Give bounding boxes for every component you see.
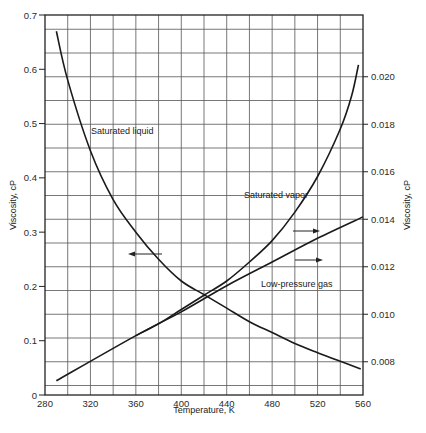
y-axis-label-right: Viscosity, cP [402, 180, 412, 230]
arrow-right-icon [293, 229, 320, 234]
y-axis-label-left: Viscosity, cP [8, 180, 18, 230]
viscosity-chart: 00.10.20.30.40.50.60.7 0.0080.0100.0120.… [0, 0, 426, 433]
left-axis-ticks: 00.10.20.30.40.50.60.7 [24, 10, 45, 401]
grid-lines [45, 15, 363, 395]
right-tick-label: 0.014 [371, 214, 395, 225]
right-tick-label: 0.018 [371, 119, 395, 130]
x-tick-label: 360 [128, 398, 144, 409]
left-tick-label: 0.7 [24, 10, 37, 21]
x-tick-label: 480 [264, 398, 280, 409]
label-saturated-vapor: Saturated vapor [244, 190, 308, 200]
left-tick-label: 0.3 [24, 227, 37, 238]
label-low-pressure-gas: Low-pressure gas [261, 279, 333, 289]
arrow-left-icon [128, 252, 162, 257]
left-tick-label: 0.6 [24, 64, 37, 75]
label-saturated-liquid: Saturated liquid [91, 126, 154, 136]
left-tick-label: 0.5 [24, 118, 37, 129]
right-tick-label: 0.016 [371, 166, 395, 177]
curve-saturated-liquid [56, 31, 360, 369]
right-tick-label: 0.010 [371, 309, 395, 320]
left-tick-label: 0.2 [24, 281, 37, 292]
right-tick-label: 0.008 [371, 356, 395, 367]
left-tick-label: 0.4 [24, 172, 37, 183]
arrow-right-icon [295, 258, 323, 263]
curves [56, 31, 363, 380]
x-axis-label: Temperature, K [173, 405, 235, 415]
curve-saturated-vapor [136, 65, 359, 336]
x-tick-label: 560 [355, 398, 371, 409]
right-tick-label: 0.012 [371, 261, 395, 272]
x-tick-label: 320 [82, 398, 98, 409]
x-tick-label: 520 [310, 398, 326, 409]
right-tick-label: 0.020 [371, 71, 395, 82]
x-tick-label: 280 [37, 398, 53, 409]
left-tick-label: 0.1 [24, 335, 37, 346]
right-axis-ticks: 0.0080.0100.0120.0140.0160.0180.020 [363, 71, 395, 367]
